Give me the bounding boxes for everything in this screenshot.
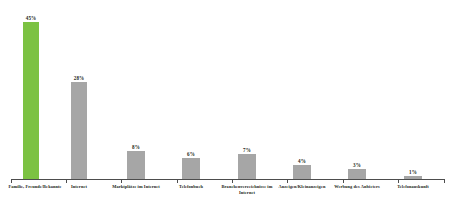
x-axis-category-label: Anzeigen/Kleinanzeigen bbox=[274, 184, 330, 190]
bar-value-label: 7% bbox=[243, 147, 251, 153]
axis-tick bbox=[232, 180, 233, 183]
bar[interactable] bbox=[23, 22, 39, 179]
bar-value-label: 1% bbox=[409, 169, 417, 175]
x-axis-category-label: Familie, Freunde/Bekannte bbox=[8, 184, 62, 190]
bar[interactable] bbox=[293, 165, 311, 179]
bar-value-label: 28% bbox=[74, 75, 85, 81]
bar-group[interactable]: 45% bbox=[23, 22, 39, 179]
bar[interactable] bbox=[127, 151, 145, 179]
bar-chart: 45% 28% 8% 6% 7% 4% 3% bbox=[0, 0, 456, 211]
bar[interactable] bbox=[238, 154, 256, 179]
axis-tick bbox=[11, 180, 12, 183]
x-axis-category-label: Werbung des Anbieters bbox=[330, 184, 384, 190]
axis-tick bbox=[287, 180, 288, 183]
x-axis-category-label: Telefonbuch bbox=[166, 184, 216, 190]
axis-tick bbox=[444, 180, 445, 183]
bar-value-label: 4% bbox=[298, 158, 306, 164]
axis-tick bbox=[343, 180, 344, 183]
axis-tick bbox=[398, 180, 399, 183]
bar-value-label: 3% bbox=[353, 162, 361, 168]
x-axis-category-label: Telefonauskunft bbox=[388, 184, 438, 190]
x-axis-line bbox=[11, 179, 445, 180]
axis-tick bbox=[66, 180, 67, 183]
bar[interactable] bbox=[71, 82, 87, 179]
bar-value-label: 6% bbox=[187, 151, 195, 157]
axis-tick bbox=[121, 180, 122, 183]
axis-tick bbox=[177, 180, 178, 183]
bar[interactable] bbox=[182, 158, 200, 179]
bar-group[interactable]: 3% bbox=[348, 169, 366, 179]
bar[interactable] bbox=[348, 169, 366, 179]
bar-group[interactable]: 8% bbox=[127, 151, 145, 179]
bar-value-label: 45% bbox=[26, 15, 37, 21]
x-axis-category-label: Internet bbox=[56, 184, 102, 190]
bar-group[interactable]: 28% bbox=[71, 82, 87, 179]
bar-group[interactable]: 7% bbox=[238, 154, 256, 179]
x-axis-category-label: Branchenverzeichnisse im Internet bbox=[219, 184, 275, 196]
bar-group[interactable]: 4% bbox=[293, 165, 311, 179]
bar-group[interactable]: 6% bbox=[182, 158, 200, 179]
x-axis-category-label: Marktplätze im Internet bbox=[108, 184, 164, 190]
bar-value-label: 8% bbox=[132, 144, 140, 150]
